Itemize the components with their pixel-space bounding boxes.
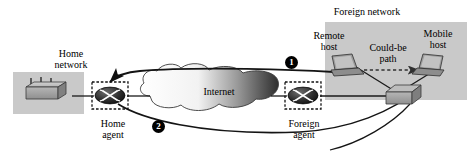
home-agent-label: Home agent	[86, 118, 140, 140]
internet-label: Internet	[188, 86, 250, 97]
mobile-host-label: Mobile host	[414, 28, 462, 50]
step-marker-1: 1	[285, 56, 298, 69]
foreign-agent-label: Foreign agent	[272, 118, 336, 140]
home-agent-router	[92, 82, 128, 109]
could-be-path-label: Could-be path	[358, 42, 418, 64]
network-diagram: Foreign network Home network Remote host…	[0, 0, 467, 154]
remote-host-label: Remote host	[303, 30, 355, 52]
diagram-canvas	[0, 0, 467, 154]
home-network-label: Home network	[36, 48, 106, 70]
foreign-network-label: Foreign network	[317, 6, 417, 17]
step-marker-2: 2	[152, 120, 165, 133]
edge-step-2-tail	[330, 104, 410, 150]
foreign-agent-router	[285, 82, 321, 109]
switch-box-icon	[386, 85, 421, 104]
